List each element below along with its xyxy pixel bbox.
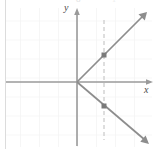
x-axis-label: x <box>144 84 148 95</box>
graph-figure: o 1 <box>0 0 156 149</box>
coordinate-plane <box>0 0 156 149</box>
upper-intersection-point <box>102 53 107 58</box>
lower-intersection-point <box>102 104 107 109</box>
y-axis-label: y <box>64 2 68 13</box>
